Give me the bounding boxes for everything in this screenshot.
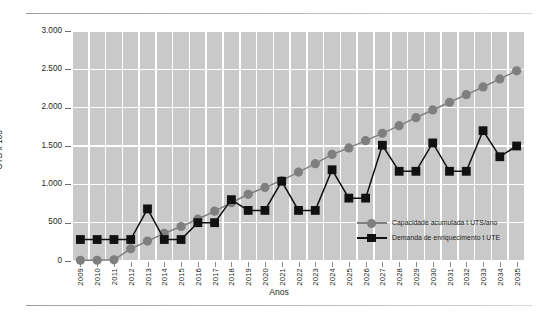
y-tick-mark (65, 31, 71, 32)
data-point-square (227, 195, 236, 204)
data-point-circle (495, 74, 504, 83)
data-point-circle (210, 207, 219, 216)
x-tick-mark (181, 262, 182, 267)
circle-marker-icon (357, 216, 387, 230)
x-tick-label: 2024 (328, 268, 337, 286)
data-point-circle (344, 143, 353, 152)
x-tick-mark (382, 262, 383, 267)
y-tick-label: 2.000 (18, 103, 62, 111)
data-point-square (143, 204, 152, 213)
legend-label: Demanda de enriquecimento t UTE (387, 234, 500, 241)
data-point-square (428, 139, 437, 148)
y-tick-mark (65, 261, 71, 262)
data-point-square (110, 235, 119, 244)
x-tick-mark (483, 262, 484, 267)
data-point-square (193, 218, 202, 227)
x-tick-mark (315, 262, 316, 267)
data-point-square (344, 194, 353, 203)
data-point-circle (378, 129, 387, 138)
x-tick-label: 2009 (76, 268, 85, 286)
x-tick-mark (248, 262, 249, 267)
data-point-circle (126, 244, 135, 253)
data-point-circle (512, 66, 521, 75)
y-tick-mark (65, 146, 71, 147)
y-tick-mark (65, 69, 71, 70)
data-point-circle (260, 183, 269, 192)
x-tick-mark (332, 262, 333, 267)
legend-label: Capacidade acumulada t UTS/ano (387, 219, 497, 226)
data-point-circle (411, 113, 420, 122)
square-marker-icon (357, 231, 387, 245)
x-tick-mark (466, 262, 467, 267)
legend-item: Capacidade acumulada t UTS/ano (357, 215, 527, 230)
y-tick-label: 1.000 (18, 180, 62, 188)
x-tick-label: 2020 (261, 268, 270, 286)
x-tick-mark (500, 262, 501, 267)
data-point-circle (294, 167, 303, 176)
x-tick-label: 2023 (311, 268, 320, 286)
x-tick-mark (416, 262, 417, 267)
legend-item: Demanda de enriquecimento t UTE (357, 230, 527, 245)
x-tick-label: 2032 (462, 268, 471, 286)
x-tick-label: 2034 (496, 268, 505, 286)
data-point-square (261, 206, 270, 215)
x-tick-label: 2022 (295, 268, 304, 286)
chart-legend: Capacidade acumulada t UTS/anoDemanda de… (357, 215, 527, 245)
data-point-square (126, 235, 135, 244)
data-point-circle (445, 98, 454, 107)
x-tick-mark (131, 262, 132, 267)
x-tick-label: 2026 (362, 268, 371, 286)
x-tick-label: 2035 (513, 268, 522, 286)
x-tick-label: 2010 (93, 268, 102, 286)
data-point-square (244, 206, 253, 215)
legend-marker-shape (367, 219, 376, 228)
y-tick-label: 3.000 (18, 27, 62, 35)
data-point-square (160, 235, 169, 244)
x-tick-mark (215, 262, 216, 267)
data-point-square (311, 206, 320, 215)
data-point-square (93, 235, 102, 244)
data-point-square (479, 126, 488, 135)
x-tick-label: 2015 (177, 268, 186, 286)
data-point-circle (395, 121, 404, 130)
x-tick-mark (399, 262, 400, 267)
x-tick-label: 2025 (345, 268, 354, 286)
y-tick-mark (65, 184, 71, 185)
data-point-square (445, 167, 454, 176)
x-tick-mark (265, 262, 266, 267)
x-tick-label: 2016 (194, 268, 203, 286)
data-point-circle (361, 136, 370, 145)
x-tick-label: 2019 (244, 268, 253, 286)
data-point-square (277, 177, 286, 186)
data-point-square (328, 165, 337, 174)
data-point-square (361, 194, 370, 203)
data-point-square (76, 235, 85, 244)
x-tick-label: 2018 (227, 268, 236, 286)
x-tick-label: 2029 (412, 268, 421, 286)
x-tick-label: 2021 (278, 268, 287, 286)
x-tick-label: 2031 (446, 268, 455, 286)
y-tick-label: 0 (18, 257, 62, 265)
data-point-circle (244, 190, 253, 199)
data-point-circle (93, 256, 102, 265)
x-tick-label: 2014 (160, 268, 169, 286)
y-tick-label: 500 (18, 218, 62, 226)
x-tick-label: 2030 (429, 268, 438, 286)
data-point-circle (428, 105, 437, 114)
data-point-square (294, 206, 303, 215)
y-tick-mark (65, 108, 71, 109)
data-point-circle (327, 150, 336, 159)
data-point-circle (109, 255, 118, 264)
data-point-circle (76, 256, 85, 265)
data-point-square (210, 218, 219, 227)
bottom-divider-rule (26, 305, 532, 306)
y-tick-label: 1.500 (18, 142, 62, 150)
x-tick-label: 2033 (479, 268, 488, 286)
data-point-square (462, 167, 471, 176)
top-divider-rule (26, 13, 532, 14)
x-tick-mark (450, 262, 451, 267)
data-point-circle (462, 90, 471, 99)
data-point-square (177, 235, 186, 244)
chart-figure: UTS x 103 Anos 05001.0001.5002.0002.5003… (0, 0, 558, 315)
data-point-circle (478, 82, 487, 91)
